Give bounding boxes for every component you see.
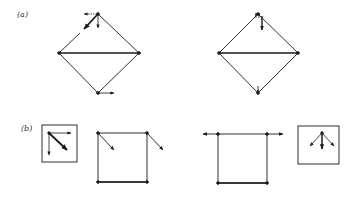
right-diamond [218, 13, 300, 95]
arrow-diagonal-bold-icon [84, 15, 97, 29]
inset-box-left [42, 125, 77, 162]
arrow-down-right-icon [322, 133, 334, 146]
square-frame-right [203, 133, 283, 185]
arrow-down-left-icon [310, 133, 322, 146]
arrow-diagonal-icon [98, 133, 114, 150]
square-frame-left [97, 132, 163, 184]
inset-box-right [298, 126, 339, 164]
arrow-diagonal-bold-icon [49, 133, 67, 150]
figure-canvas: (a) (b) [0, 0, 350, 197]
panel-b: (b) [21, 124, 339, 184]
panel-a: (a) [17, 10, 299, 94]
panel-b-label: (b) [21, 124, 32, 133]
panel-a-label: (a) [17, 10, 28, 19]
arrow-diagonal-icon [147, 133, 163, 150]
left-diamond [58, 13, 141, 95]
